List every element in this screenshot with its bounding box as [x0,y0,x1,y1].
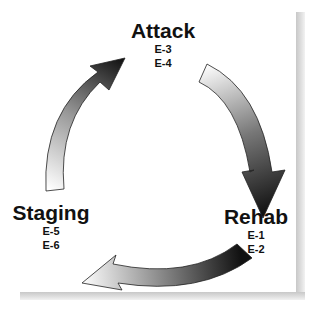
node-title: Rehab [218,206,294,228]
node-title: Attack [118,20,208,42]
arrow-attack-to-rehab [199,64,285,218]
node-title: Staging [10,202,92,224]
node-item: E-6 [10,238,92,252]
node-item: E-5 [10,224,92,238]
node-item: E-3 [118,42,208,56]
cycle-diagram: Attack E-3 E-4 Rehab E-1 E-2 Staging E-5… [0,0,318,315]
node-item: E-1 [218,228,294,242]
arrow-staging-to-attack [46,58,125,191]
node-item: E-2 [218,242,294,256]
node-rehab: Rehab E-1 E-2 [218,206,294,256]
node-attack: Attack E-3 E-4 [118,20,208,70]
node-item: E-4 [118,56,208,70]
node-staging: Staging E-5 E-6 [10,202,92,252]
